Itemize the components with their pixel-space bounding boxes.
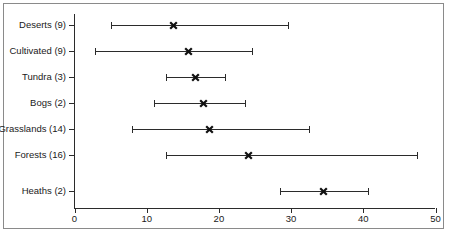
y-axis-label: Deserts (9) bbox=[0, 20, 66, 30]
range-cap-low bbox=[95, 48, 96, 55]
x-axis-tick-label: 0 bbox=[60, 214, 90, 224]
range-cap-high bbox=[309, 126, 310, 133]
x-axis-line bbox=[74, 208, 435, 209]
mean-marker bbox=[191, 73, 200, 82]
y-axis-label: Cultivated (9) bbox=[0, 46, 66, 56]
y-axis-label: Tundra (3) bbox=[0, 72, 66, 82]
range-cap-low bbox=[166, 152, 167, 159]
x-axis-tick-label: 10 bbox=[132, 214, 162, 224]
y-axis-label: Forests (16) bbox=[0, 150, 66, 160]
mean-marker bbox=[199, 99, 208, 108]
x-axis-tick-label: 30 bbox=[276, 214, 306, 224]
range-cap-high bbox=[225, 74, 226, 81]
y-axis-label: Grasslands (14) bbox=[0, 124, 66, 134]
y-axis-tick bbox=[69, 191, 75, 192]
range-cap-high bbox=[417, 152, 418, 159]
y-axis-label: Bogs (2) bbox=[0, 98, 66, 108]
mean-marker bbox=[184, 47, 193, 56]
y-axis-label-text: Heaths (2) bbox=[22, 186, 66, 196]
y-axis-tick bbox=[69, 103, 75, 104]
y-axis-label-text: Cultivated (9) bbox=[10, 46, 67, 56]
x-axis-tick-label: 40 bbox=[348, 214, 378, 224]
range-cap-low bbox=[111, 22, 112, 29]
y-axis-label-text: Tundra (3) bbox=[22, 72, 66, 82]
chart-figure: Deserts (9)Cultivated (9)Tundra (3)Bogs … bbox=[0, 0, 451, 235]
range-line bbox=[111, 25, 289, 26]
y-axis-label-text: Deserts (9) bbox=[19, 20, 66, 30]
x-axis-tick-label: 20 bbox=[204, 214, 234, 224]
range-line bbox=[132, 129, 310, 130]
y-axis-tick bbox=[69, 77, 75, 78]
range-cap-high bbox=[288, 22, 289, 29]
range-cap-low bbox=[166, 74, 167, 81]
mean-marker bbox=[169, 21, 178, 30]
range-cap-high bbox=[245, 100, 246, 107]
plot-area: Deserts (9)Cultivated (9)Tundra (3)Bogs … bbox=[0, 0, 451, 235]
y-axis-tick bbox=[69, 155, 75, 156]
y-axis-label-text: Forests (16) bbox=[15, 150, 66, 160]
y-axis-label-text: Grasslands (14) bbox=[0, 124, 66, 134]
range-cap-low bbox=[154, 100, 155, 107]
mean-marker bbox=[244, 151, 253, 160]
y-axis-label: Heaths (2) bbox=[0, 186, 66, 196]
range-cap-high bbox=[368, 188, 369, 195]
mean-marker bbox=[319, 187, 328, 196]
range-cap-low bbox=[132, 126, 133, 133]
range-cap-high bbox=[252, 48, 253, 55]
range-line bbox=[95, 51, 252, 52]
y-axis-label-text: Bogs (2) bbox=[30, 98, 66, 108]
y-axis-line bbox=[74, 14, 75, 208]
y-axis-tick bbox=[69, 25, 75, 26]
y-axis-tick bbox=[69, 129, 75, 130]
range-cap-low bbox=[280, 188, 281, 195]
x-axis-tick-label: 50 bbox=[421, 214, 451, 224]
mean-marker bbox=[205, 125, 214, 134]
y-axis-tick bbox=[69, 51, 75, 52]
range-line bbox=[166, 155, 417, 156]
